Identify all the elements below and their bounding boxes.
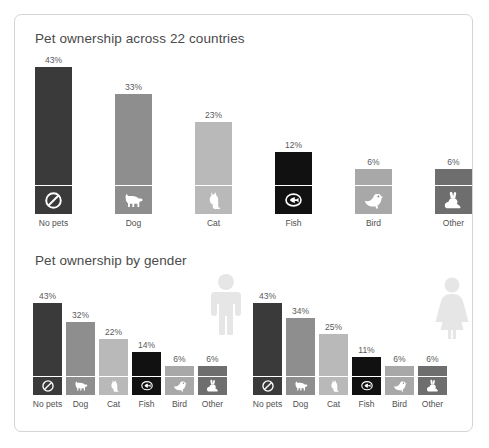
chart-title-countries: Pet ownership across 22 countries [35, 31, 245, 46]
bar-stack [66, 322, 95, 395]
icon-box-fish [352, 376, 381, 395]
bar-stack [132, 352, 161, 395]
icon-box-no-pets [35, 185, 72, 214]
cat-icon [202, 189, 225, 212]
category-label: No pets [31, 399, 64, 410]
bar-value-label: 12% [285, 140, 302, 150]
category-label: Bird [334, 218, 414, 229]
bar-body [132, 352, 161, 376]
male-figure-icon [207, 273, 245, 335]
bar-stack [418, 366, 447, 395]
bar-body [275, 152, 312, 185]
fish-icon [139, 378, 155, 394]
icon-box-cat [99, 376, 128, 395]
category-label: Cat [174, 218, 254, 229]
icon-box-bird [355, 185, 392, 214]
bar-body [319, 334, 348, 376]
bar-body [355, 169, 392, 185]
category-label: No pets [251, 399, 284, 410]
bird-icon [172, 378, 188, 394]
fish-icon [359, 378, 375, 394]
female-figure-icon [433, 277, 471, 339]
bar-value-label: 34% [292, 306, 309, 316]
bird-icon [362, 189, 385, 212]
bar-bird: 6%Bird [355, 157, 392, 229]
icon-box-dog [115, 185, 152, 214]
category-label: Cat [317, 399, 350, 410]
bar-other: 6%Other [435, 157, 472, 229]
cat-icon [326, 378, 342, 394]
cat-icon [106, 378, 122, 394]
bar-value-label: 6% [206, 354, 218, 364]
bar-chart-male: 43%No pets32%Dog22%Cat14%Fish6%Bird6%Oth… [33, 283, 229, 413]
bar-stack [286, 318, 315, 395]
bar-no-pets: 43%No pets [35, 55, 72, 229]
chart-title-gender: Pet ownership by gender [35, 253, 187, 268]
bar-body [99, 339, 128, 376]
bar-other: 6%Other [198, 354, 227, 395]
category-label: Bird [163, 399, 196, 410]
bar-dog: 33%Dog [115, 82, 152, 229]
bar-value-label: 22% [105, 327, 122, 337]
category-label: No pets [14, 218, 94, 229]
no-pets-icon [260, 378, 276, 394]
bar-no-pets: 43%No pets [253, 291, 282, 395]
bar-dog: 32%Dog [66, 310, 95, 395]
icon-box-bird [385, 376, 414, 395]
bar-stack [195, 122, 232, 214]
bar-value-label: 43% [259, 291, 276, 301]
bar-stack [253, 303, 282, 395]
category-label: Cat [97, 399, 130, 410]
bar-value-label: 23% [205, 110, 222, 120]
fish-icon [282, 189, 305, 212]
bar-dog: 34%Dog [286, 306, 315, 395]
bar-stack [355, 169, 392, 214]
category-label: Fish [130, 399, 163, 410]
bar-value-label: 14% [138, 340, 155, 350]
bar-body [253, 303, 282, 376]
bar-body [385, 366, 414, 376]
category-label: Fish [254, 218, 334, 229]
category-label: Dog [64, 399, 97, 410]
icon-box-no-pets [253, 376, 282, 395]
bar-fish: 12%Fish [275, 140, 312, 229]
dog-icon [122, 189, 145, 212]
category-label: Fish [350, 399, 383, 410]
bar-stack [352, 357, 381, 395]
icon-box-other [435, 185, 472, 214]
icon-box-other [418, 376, 447, 395]
no-pets-icon [40, 378, 56, 394]
bar-body [286, 318, 315, 376]
bar-body [165, 366, 194, 376]
infographic-card: Pet ownership across 22 countries 43%No … [14, 14, 473, 432]
rabbit-icon [425, 378, 441, 394]
bar-body [35, 67, 72, 185]
icon-box-dog [286, 376, 315, 395]
category-label: Other [416, 399, 449, 410]
bar-stack [275, 152, 312, 214]
icon-box-dog [66, 376, 95, 395]
bar-cat: 23%Cat [195, 110, 232, 229]
bar-stack [385, 366, 414, 395]
bar-value-label: 6% [367, 157, 379, 167]
bird-icon [392, 378, 408, 394]
bar-stack [35, 67, 72, 214]
icon-box-fish [275, 185, 312, 214]
dog-icon [73, 378, 89, 394]
bar-fish: 14%Fish [132, 340, 161, 395]
bar-value-label: 32% [72, 310, 89, 320]
bar-other: 6%Other [418, 354, 447, 395]
category-label: Other [196, 399, 229, 410]
rabbit-icon [205, 378, 221, 394]
bar-stack [99, 339, 128, 395]
bar-chart-female: 43%No pets34%Dog25%Cat11%Fish6%Bird6%Oth… [253, 283, 449, 413]
icon-box-no-pets [33, 376, 62, 395]
bar-cat: 22%Cat [99, 327, 128, 395]
icon-box-cat [319, 376, 348, 395]
icon-box-cat [195, 185, 232, 214]
bar-stack [198, 366, 227, 395]
bar-body [418, 366, 447, 376]
bar-value-label: 33% [125, 82, 142, 92]
bar-value-label: 11% [358, 345, 374, 355]
bar-stack [435, 169, 472, 214]
